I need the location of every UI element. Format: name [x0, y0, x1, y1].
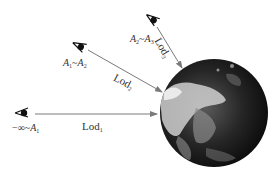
range-label-3: A2~A3 [130, 34, 154, 45]
range-label-2: A1~A2 [63, 58, 87, 69]
earth-globe [160, 59, 268, 167]
lod-label-1: Lod1 [82, 121, 103, 133]
range-prefix: −∞~ [12, 122, 30, 133]
lod-text: Lod [82, 120, 100, 132]
lod-diagram: −∞~A1 A1~A2 A2~A3 Lod1 Lod2 Lod3 [0, 0, 277, 178]
eye-icon [15, 108, 28, 117]
range-sub: 2 [84, 63, 87, 69]
lod-sub: 1 [100, 127, 103, 133]
range-label-1: −∞~A1 [12, 123, 39, 134]
eye-icon [71, 38, 87, 52]
eye-icon [144, 11, 160, 26]
range-sub: 1 [36, 128, 39, 134]
